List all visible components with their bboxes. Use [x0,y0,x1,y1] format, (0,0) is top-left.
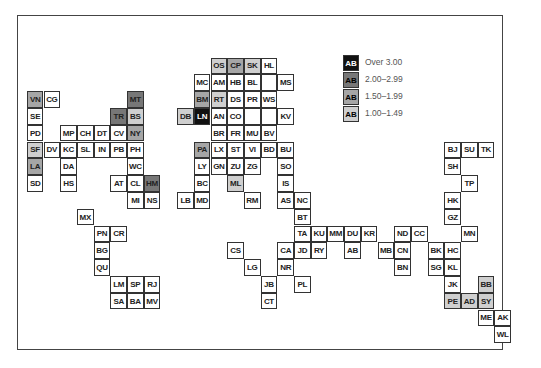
legend-label: Over 3.00 [365,57,402,67]
map-tile-se: SE [27,108,44,125]
map-tile-kc: KC [60,142,77,159]
map-tile-hs: HS [60,175,77,192]
map-tile-bu: BU [277,142,294,159]
map-tile-da: DA [60,158,77,175]
map-tile-sd: SD [27,175,44,192]
legend-swatch: AB [343,89,359,105]
map-tile-sf: SF [27,142,44,159]
map-tile-nc: NC [294,192,311,209]
map-tile-cl: CL [127,175,144,192]
map-tile-pr: PR [244,91,261,108]
map-tile-bv: BV [261,125,278,142]
map-tile-ba: BA [127,293,144,310]
map-tile-ws: WS [261,91,278,108]
legend-item-1-5-to-2: AB 1.50–1.99 [343,89,443,106]
map-tile-sh: SH [444,158,461,175]
map-tile-ly: LY [194,158,211,175]
map-tile-cc: CC [411,226,428,243]
map-tile-bj: BJ [444,142,461,159]
map-tile-bl: BL [244,74,261,91]
map-tile-tk: TK [478,142,495,159]
map-tile-hl: HL [261,58,278,75]
map-tile-as: AS [277,192,294,209]
map-tile-cs: CS [227,242,244,259]
map-tile-am: AM [211,74,228,91]
map-tile-nr: NR [277,259,294,276]
map-tile-ny: NY [127,125,144,142]
legend-label: 2.00–2.99 [365,74,403,84]
map-tile-ph: PH [127,142,144,159]
map-tile-ta: TA [294,226,311,243]
map-tile-vn: VN [27,91,44,108]
map-tile-su: SU [461,142,478,159]
legend-swatch: AB [343,106,359,122]
map-tile-blank [261,108,278,125]
map-tile-bt: BT [294,209,311,226]
map-tile-pb: PB [110,142,127,159]
map-tile-du: DU [344,226,361,243]
map-tile-pd: PD [27,125,44,142]
map-tile-hb: HB [227,74,244,91]
map-tile-st: ST [227,142,244,159]
legend-item-2-to-3: AB 2.00–2.99 [343,72,443,89]
map-tile-bm: BM [194,91,211,108]
map-tile-cn: CN [394,242,411,259]
map-tile-mc: MC [194,74,211,91]
map-tile-rm: RM [244,192,261,209]
legend: AB Over 3.00 AB 2.00–2.99 AB 1.50–1.99 A… [343,55,443,123]
map-tile-pn: PN [94,226,111,243]
map-tile-sg: SG [428,259,445,276]
map-tile-pe: PE [444,293,461,310]
map-tile-ry: RY [311,242,328,259]
map-tile-hk: HK [444,192,461,209]
map-tile-br: BR [211,125,228,142]
map-tile-lm: LM [110,276,127,293]
map-tile-cv: CV [110,125,127,142]
legend-item-over-3: AB Over 3.00 [343,55,443,72]
map-tile-cg: CG [44,91,61,108]
map-tile-co: CO [227,108,244,125]
map-tile-rt: RT [211,91,228,108]
map-tile-ln: LN [194,108,211,125]
map-tile-mx: MX [77,209,94,226]
map-tile-is: IS [277,175,294,192]
map-tile-mt: MT [127,91,144,108]
map-tile-bg: BG [94,242,111,259]
map-tile-bn: BN [394,259,411,276]
map-tile-blank [244,108,261,125]
map-tile-hm: HM [144,175,161,192]
map-tile-kr: KR [361,226,378,243]
map-tile-ca: CA [277,242,294,259]
map-tile-kv: KV [277,108,294,125]
map-tile-mn: MN [461,226,478,243]
map-tile-bb: BB [478,276,495,293]
map-tile-sy: SY [478,293,495,310]
map-tile-so: SO [277,158,294,175]
map-tile-cr: CR [110,226,127,243]
map-tile-cp: CP [227,58,244,75]
map-tile-pl: PL [294,276,311,293]
map-tile-ml: ML [227,175,244,192]
map-tile-md: MD [194,192,211,209]
map-tile-bd: BD [261,142,278,159]
map-tile-ku: KU [311,226,328,243]
map-tile-me: ME [478,310,495,327]
map-tile-mu: MU [244,125,261,142]
map-tile-an: AN [211,108,228,125]
map-tile-tp: TP [461,175,478,192]
map-tile-in: IN [94,142,111,159]
map-tile-ak: AK [494,310,511,327]
map-tile-ch: CH [77,125,94,142]
map-tile-gn: GN [211,158,228,175]
map-tile-ns: NS [144,192,161,209]
map-tile-wl: WL [494,326,511,343]
map-tile-nd: ND [394,226,411,243]
map-tile-lg: LG [244,259,261,276]
map-tile-bc: BC [194,175,211,192]
map-tile-fr: FR [227,125,244,142]
legend-label: 1.00–1.49 [365,108,403,118]
map-tile-wc: WC [127,158,144,175]
map-tile-ms: MS [277,74,294,91]
map-tile-mp: MP [60,125,77,142]
map-tile-sa: SA [110,293,127,310]
